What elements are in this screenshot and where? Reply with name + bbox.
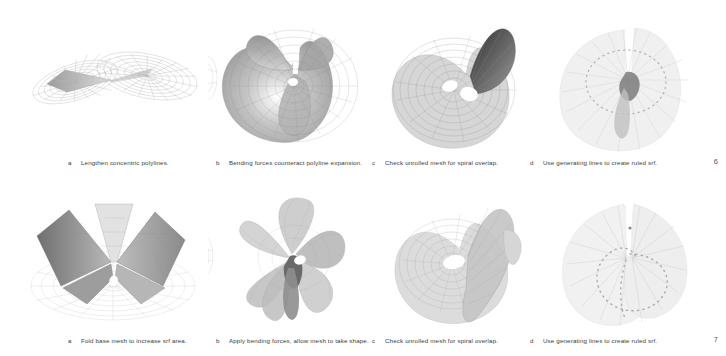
figure-row-6: a Lengthen concentric polylines. b Bendi… [0, 0, 726, 178]
figure-row-6-images [0, 0, 726, 155]
figure-row-7: a Fold base mesh to increase srf area. b… [0, 178, 726, 356]
caption-letter: a [68, 159, 81, 166]
generating-lines-fan-body [562, 202, 687, 326]
figure-fold-base-mesh[interactable] [18, 178, 208, 333]
folded-panels [37, 204, 185, 304]
caption-6d: d Use generating lines to create ruled s… [530, 159, 657, 166]
figure-apply-bending-forces[interactable] [208, 178, 380, 333]
caption-text: Check unrolled mesh for spiral overlap. [385, 337, 498, 344]
figure-sheet: a Lengthen concentric polylines. b Bendi… [0, 0, 726, 356]
spiral-unrolled-body [392, 28, 515, 148]
caption-7b: b Apply bending forces, allow mesh to ta… [216, 337, 369, 344]
caption-text: Check unrolled mesh for spiral overlap. [385, 159, 498, 166]
caption-7d: d Use generating lines to create ruled s… [530, 337, 657, 344]
caption-letter: c [372, 337, 385, 344]
figure-generating-lines-ruled-srf-2[interactable] [540, 178, 716, 333]
caption-letter: b [216, 337, 229, 344]
pinwheel-body [240, 198, 345, 321]
caption-letter: a [68, 337, 81, 344]
partial-disc-left [208, 236, 213, 276]
partial-disc-left [208, 56, 217, 100]
spiral-cone-body [395, 208, 521, 324]
caption-text: Use generating lines to create ruled srf… [543, 337, 657, 344]
caption-text: Use generating lines to create ruled srf… [543, 159, 657, 166]
row-number-6: 6 [714, 157, 718, 166]
caption-6a: a Lengthen concentric polylines. [68, 159, 169, 166]
figure-row-7-images [0, 178, 726, 333]
caption-7a: a Fold base mesh to increase srf area. [68, 337, 187, 344]
caption-7c: c Check unrolled mesh for spiral overlap… [372, 337, 498, 344]
generating-lines-body [560, 28, 688, 152]
caption-text: Fold base mesh to increase srf area. [81, 337, 187, 344]
caption-6b: b Bending forces counteract polyline exp… [216, 159, 362, 166]
conical-fold-body [222, 28, 358, 142]
caption-text: Apply bending forces, allow mesh to take… [229, 337, 369, 344]
caption-letter: d [530, 159, 543, 166]
figure-row-7-captions: a Fold base mesh to increase srf area. b… [0, 333, 726, 356]
figure-bending-forces-counteract[interactable] [208, 0, 380, 155]
caption-letter: c [372, 159, 385, 166]
figure-unrolled-spiral-overlap-2[interactable] [380, 178, 540, 333]
caption-letter: b [216, 159, 229, 166]
caption-text: Lengthen concentric polylines. [81, 159, 169, 166]
row-number-7: 7 [714, 335, 718, 344]
caption-6c: c Check unrolled mesh for spiral overlap… [372, 159, 498, 166]
figure-unrolled-spiral-overlap[interactable] [380, 0, 540, 155]
figure-saddle-concentric-polylines[interactable] [18, 0, 208, 155]
caption-text: Bending forces counteract polyline expan… [229, 159, 362, 166]
saddle-mesh-left [26, 44, 201, 116]
figure-generating-lines-ruled-srf[interactable] [540, 0, 716, 155]
figure-row-6-captions: a Lengthen concentric polylines. b Bendi… [0, 155, 726, 178]
caption-letter: d [530, 337, 543, 344]
